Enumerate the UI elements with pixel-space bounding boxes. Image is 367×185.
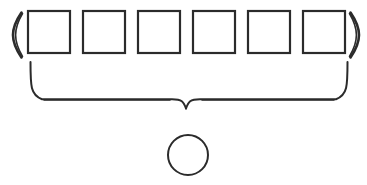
box-2[interactable] bbox=[83, 11, 125, 53]
diagram-svg bbox=[0, 0, 367, 185]
box-6[interactable] bbox=[303, 11, 345, 53]
box-1[interactable] bbox=[28, 11, 70, 53]
box-4[interactable] bbox=[193, 11, 235, 53]
box-5[interactable] bbox=[248, 11, 290, 53]
diagram-canvas: Sequence of six empty boxes grouped by a… bbox=[0, 0, 367, 185]
result-circle[interactable] bbox=[168, 135, 208, 175]
box-3[interactable] bbox=[138, 11, 180, 53]
